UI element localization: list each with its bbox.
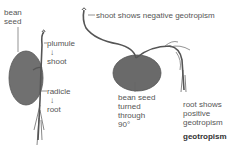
- figure-title: geotropism: [183, 132, 227, 141]
- label-plumule-shoot: plumule ↓ shoot: [47, 39, 75, 66]
- label-bean-seed: bean seed: [4, 8, 22, 26]
- bean-seed-left: [9, 51, 43, 105]
- label-seed-turned: bean seed turned through 90°: [118, 93, 155, 129]
- label-root-positive: root shows positive geotropism: [183, 100, 223, 127]
- label-shoot-negative: shoot shows negative geotropism: [96, 11, 215, 20]
- bean-seed-right: [113, 55, 161, 91]
- label-radicle-root: radicle ↓ root: [47, 87, 71, 114]
- diagram-drawing: [0, 0, 227, 153]
